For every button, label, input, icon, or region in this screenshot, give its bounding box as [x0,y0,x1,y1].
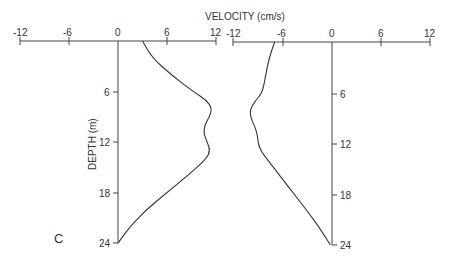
svg-text:6: 6 [340,89,346,100]
right-velocity-curve [250,42,330,245]
svg-text:-6: -6 [63,27,72,38]
svg-text:24: 24 [99,238,111,249]
svg-text:12: 12 [340,139,352,150]
svg-text:6: 6 [164,27,170,38]
left-panel [20,37,216,243]
right-y-tick-labels: 6 12 18 24 [340,89,352,251]
y-axis-label: DEPTH (m) [87,118,98,170]
svg-text:6: 6 [378,28,384,39]
svg-text:6: 6 [104,87,110,98]
chart-title: VELOCITY (cm/s) [205,11,285,22]
velocity-depth-chart: VELOCITY (cm/s) -12 -6 0 6 12 6 12 18 24… [0,0,450,267]
svg-text:12: 12 [424,28,436,39]
left-y-tick-labels: 6 12 18 24 [99,87,111,249]
left-velocity-curve [118,41,211,243]
right-panel [233,38,430,245]
left-x-tick-labels: -12 -6 0 6 12 [13,27,222,38]
svg-text:0: 0 [329,28,335,39]
svg-text:18: 18 [340,190,352,201]
svg-text:18: 18 [99,188,111,199]
svg-text:0: 0 [115,27,121,38]
svg-text:-12: -12 [226,28,241,39]
svg-text:12: 12 [210,27,222,38]
svg-text:24: 24 [340,240,352,251]
svg-text:-12: -12 [13,27,28,38]
panel-label: C [54,231,63,246]
svg-text:12: 12 [99,137,111,148]
right-x-tick-labels: -12 -6 0 6 12 [226,28,436,39]
svg-text:-6: -6 [277,28,286,39]
